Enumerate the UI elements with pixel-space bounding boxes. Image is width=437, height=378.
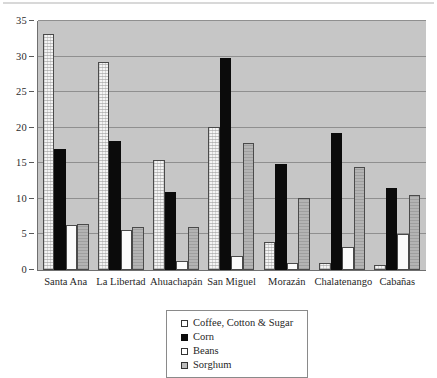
y-axis-tick-label: 20 xyxy=(16,123,27,133)
y-axis-tick xyxy=(29,198,34,199)
y-axis-tick-label: 0 xyxy=(22,265,27,275)
y-axis-tick-label: 35 xyxy=(16,16,27,26)
bar xyxy=(319,263,331,270)
y-axis-tick xyxy=(29,91,34,92)
y-axis-tick xyxy=(29,162,34,163)
bar xyxy=(176,261,188,270)
bar-group xyxy=(370,21,425,270)
y-axis-tick xyxy=(29,233,34,234)
bar xyxy=(220,58,232,270)
legend-item-label: Corn xyxy=(193,331,214,343)
bar-group xyxy=(259,21,314,270)
bar xyxy=(54,149,66,270)
bar xyxy=(231,256,243,270)
bar-group xyxy=(204,21,259,270)
chart-legend: Coffee, Cotton & SugarCornBeansSorghum xyxy=(166,310,308,378)
y-axis-tick xyxy=(29,269,34,270)
x-axis: Santa AnaLa LibertadAhuachapánSan Miguel… xyxy=(38,276,425,292)
legend-item: Corn xyxy=(167,330,307,344)
bar xyxy=(342,247,354,270)
bar-group xyxy=(38,21,93,270)
bar xyxy=(354,167,366,270)
bar xyxy=(109,141,121,270)
bar-series-container xyxy=(38,21,425,270)
bar xyxy=(66,225,78,270)
bar xyxy=(298,198,310,270)
x-axis-tick-label: Morazán xyxy=(259,276,314,288)
bar xyxy=(264,242,276,270)
x-axis-tick-label: Santa Ana xyxy=(38,276,93,288)
x-axis-tick-label: La Libertad xyxy=(93,276,148,288)
bar xyxy=(132,227,144,270)
legend-item-label: Coffee, Cotton & Sugar xyxy=(193,317,293,329)
legend-item-label: Beans xyxy=(193,345,219,357)
bar xyxy=(374,265,386,270)
y-axis-tick-label: 25 xyxy=(16,87,27,97)
legend-item-label: Sorghum xyxy=(193,359,231,371)
bar-group xyxy=(149,21,204,270)
legend-item: Sorghum xyxy=(167,358,307,372)
bar xyxy=(243,143,255,270)
y-axis-tick-label: 15 xyxy=(16,158,27,168)
bar xyxy=(409,195,421,270)
legend-swatch-icon xyxy=(181,348,188,355)
y-axis: 05101520253035 xyxy=(0,21,34,270)
y-axis-tick xyxy=(29,56,34,57)
bar xyxy=(275,164,287,270)
bar xyxy=(287,263,299,270)
x-axis-tick-label: San Miguel xyxy=(204,276,259,288)
x-axis-tick-label: Ahuachapán xyxy=(149,276,204,288)
y-axis-tick xyxy=(29,20,34,21)
bar-group xyxy=(314,21,369,270)
bar xyxy=(77,224,89,270)
y-axis-tick-label: 10 xyxy=(16,194,27,204)
bar xyxy=(331,133,343,270)
top-divider xyxy=(3,2,434,4)
bar xyxy=(208,127,220,270)
legend-swatch-icon xyxy=(181,334,188,341)
bar xyxy=(153,160,165,270)
legend-item: Beans xyxy=(167,344,307,358)
bar-group xyxy=(93,21,148,270)
legend-swatch-icon xyxy=(181,320,188,327)
y-axis-tick-label: 5 xyxy=(22,229,27,239)
bar xyxy=(397,234,409,270)
bar xyxy=(121,230,133,270)
x-axis-tick-label: Cabañas xyxy=(370,276,425,288)
y-axis-tick-label: 30 xyxy=(16,52,27,62)
y-axis-tick xyxy=(29,127,34,128)
bar xyxy=(386,188,398,270)
bar xyxy=(98,62,110,270)
legend-item: Coffee, Cotton & Sugar xyxy=(167,316,307,330)
bar xyxy=(43,34,55,270)
x-axis-tick-label: Chalatenango xyxy=(314,276,369,288)
legend-swatch-icon xyxy=(181,362,188,369)
bar xyxy=(165,192,177,270)
bar xyxy=(188,227,200,270)
